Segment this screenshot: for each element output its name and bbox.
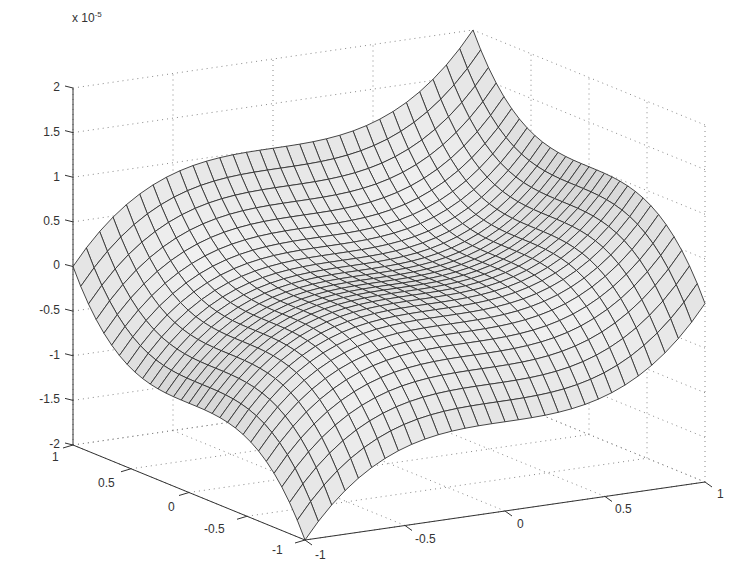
y-tick: [179, 493, 189, 496]
z-exponent-label: x 10-5: [72, 10, 102, 25]
surface-plot-canvas: [0, 0, 748, 578]
y-tick: [63, 445, 73, 448]
z-tick-label: -2: [20, 437, 60, 451]
surface-plot-figure: x 10-5 2 1.5 1 0.5 0 -0.5 -1 -1.5 -2 1 0…: [0, 0, 748, 578]
z-tick-label: 0.5: [20, 214, 60, 228]
x-tick-label: 0.5: [615, 502, 632, 516]
x-tick: [705, 482, 712, 487]
x-tick: [505, 511, 512, 516]
z-tick: [65, 354, 73, 356]
z-tick: [65, 220, 73, 222]
y-tick-label: -0.5: [204, 522, 225, 536]
z-tick: [65, 131, 73, 133]
x-tick: [605, 497, 612, 502]
z-tick: [65, 175, 73, 177]
z-tick-label: -1.5: [20, 392, 60, 406]
z-tick-label: -1: [20, 348, 60, 362]
z-tick: [65, 309, 73, 311]
x-tick-label: -0.5: [415, 532, 436, 546]
x-tick-label: 0: [517, 517, 524, 531]
x-tick: [305, 540, 312, 545]
z-tick-label: 1.5: [20, 125, 60, 139]
y-tick-label: 0: [168, 500, 175, 514]
x-tick-label: -1: [315, 548, 326, 562]
z-tick: [65, 265, 73, 267]
z-tick-label: 0: [20, 258, 60, 272]
y-tick-label: 0.5: [98, 476, 115, 490]
z-tick-label: 1: [20, 170, 60, 184]
y-tick-label: 1: [52, 450, 59, 464]
x-tick: [405, 526, 412, 531]
z-tick: [65, 443, 73, 445]
y-tick: [121, 469, 131, 472]
z-tick: [65, 86, 73, 88]
z-tick: [65, 398, 73, 400]
y-tick-label: -1: [272, 543, 283, 557]
y-tick: [237, 516, 247, 519]
y-tick: [295, 540, 305, 543]
z-tick-label: -0.5: [20, 303, 60, 317]
z-tick-label: 2: [20, 80, 60, 94]
x-tick-label: 1: [717, 487, 724, 501]
